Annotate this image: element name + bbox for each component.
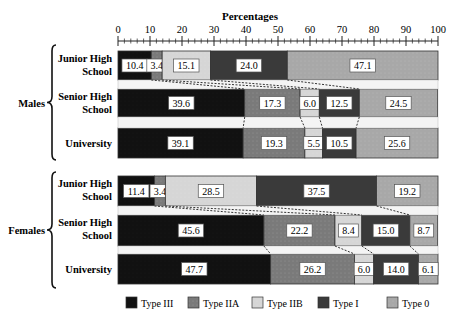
value-label: 28.5	[202, 186, 220, 197]
legend-label: Type III	[141, 298, 173, 309]
row-label: School	[82, 104, 112, 115]
value-label: 8.7	[418, 225, 431, 236]
x-tick-label: 100	[430, 24, 446, 35]
bar-row: 39.119.35.510.525.6	[118, 128, 438, 158]
value-label: 37.5	[308, 186, 326, 197]
x-tick-label: 60	[305, 24, 316, 35]
value-label: 26.2	[304, 264, 322, 275]
value-label: 15.0	[377, 225, 395, 236]
legend: Type IIIType IIAType IIBType IType 0	[126, 297, 429, 309]
row-label: Junior High	[58, 178, 113, 189]
value-label: 45.6	[182, 225, 200, 236]
value-label: 25.6	[388, 138, 406, 149]
value-label: 8.4	[342, 225, 355, 236]
bar-row: 11.43.428.537.519.2	[118, 176, 438, 206]
legend-label: Type 0	[402, 298, 429, 309]
value-label: 3.4	[150, 60, 163, 71]
x-tick-label: 40	[241, 24, 252, 35]
legend-label: Type IIB	[267, 298, 303, 309]
legend-swatch	[252, 297, 263, 308]
row-label: University	[65, 138, 112, 149]
group-brace	[47, 172, 56, 288]
x-tick-label: 20	[177, 24, 188, 35]
value-label: 12.5	[331, 98, 349, 109]
value-label: 6.1	[422, 264, 435, 275]
stacked-bar-chart: Percentages0102030405060708090100 10.43.…	[0, 0, 458, 325]
value-label: 14.0	[387, 264, 405, 275]
x-tick-label: 90	[401, 24, 412, 35]
legend-swatch	[387, 297, 398, 308]
row-label: Senior High	[58, 217, 112, 228]
bar-row: 39.617.36.012.524.5	[118, 89, 438, 117]
legend-label: Type I	[333, 298, 359, 309]
bar-row: 10.43.415.124.047.1	[118, 51, 438, 80]
value-label: 10.5	[331, 138, 349, 149]
group-label: Males	[18, 98, 45, 109]
x-tick-label: 0	[115, 24, 120, 35]
x-tick-label: 30	[209, 24, 220, 35]
value-label: 19.3	[265, 138, 283, 149]
x-tick-label: 10	[145, 24, 156, 35]
x-tick-label: 70	[337, 24, 348, 35]
value-label: 47.1	[354, 60, 372, 71]
legend-swatch	[318, 297, 329, 308]
x-tick-label: 50	[273, 24, 284, 35]
row-label: School	[82, 191, 112, 202]
legend-label: Type IIA	[203, 298, 240, 309]
bars: 10.43.415.124.047.139.617.36.012.524.539…	[118, 51, 438, 284]
row-label: School	[82, 66, 112, 77]
value-label: 3.4	[154, 186, 167, 197]
bar-row: 45.622.28.415.08.7	[118, 215, 438, 246]
group-label: Females	[8, 225, 45, 236]
value-label: 6.0	[303, 98, 316, 109]
value-label: 47.7	[186, 264, 204, 275]
row-label: Junior High	[58, 53, 113, 64]
x-tick-label: 80	[369, 24, 380, 35]
value-label: 19.2	[399, 186, 417, 197]
value-label: 17.3	[264, 98, 282, 109]
value-label: 15.1	[178, 60, 196, 71]
value-label: 39.6	[173, 98, 191, 109]
row-labels: Junior HighSchoolSenior HighSchoolUniver…	[8, 45, 112, 288]
legend-swatch	[126, 297, 137, 308]
value-label: 6.0	[358, 264, 371, 275]
row-label: School	[82, 230, 112, 241]
value-label: 24.0	[240, 60, 258, 71]
value-label: 39.1	[172, 138, 190, 149]
value-label: 5.5	[307, 138, 320, 149]
row-label: Senior High	[58, 91, 112, 102]
group-brace	[47, 45, 56, 160]
legend-swatch	[188, 297, 199, 308]
value-label: 22.2	[291, 225, 309, 236]
axis-title: Percentages	[222, 10, 279, 22]
value-label: 10.4	[126, 60, 144, 71]
value-label: 11.4	[128, 186, 145, 197]
x-axis: Percentages0102030405060708090100	[115, 10, 446, 46]
row-label: University	[65, 264, 112, 275]
value-label: 24.5	[390, 98, 408, 109]
bar-row: 47.726.26.014.06.1	[118, 254, 438, 284]
